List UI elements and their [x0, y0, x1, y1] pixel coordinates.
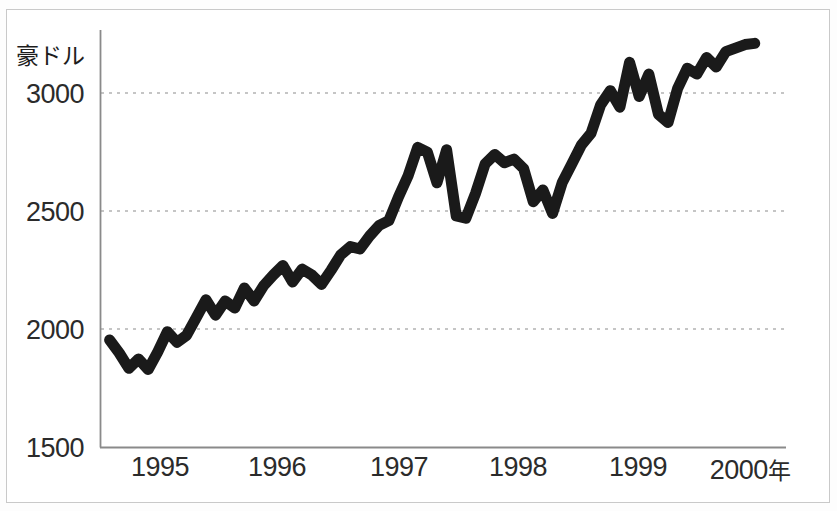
- axes: [100, 30, 786, 448]
- chart-figure: 豪ドル 3000 2500 2000 1500 1995 1996 1997 1…: [0, 0, 837, 511]
- chart-plot-area: [0, 0, 837, 511]
- gridlines: [101, 93, 786, 329]
